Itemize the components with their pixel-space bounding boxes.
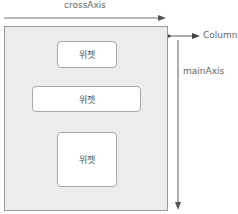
widget-label: 위젯 bbox=[79, 93, 95, 106]
widget-label: 위젯 bbox=[79, 153, 95, 166]
widget-label: 위젯 bbox=[79, 48, 95, 61]
widget-1: 위젯 bbox=[57, 41, 117, 68]
widget-3: 위젯 bbox=[57, 132, 117, 187]
widget-2: 위젯 bbox=[32, 86, 141, 112]
main-axis-label: mainAxis bbox=[183, 66, 224, 76]
column-label: Column bbox=[203, 30, 237, 40]
column-pointer-arrow-icon bbox=[167, 33, 200, 39]
main-axis-arrow-icon bbox=[175, 40, 181, 210]
cross-axis-arrow-icon bbox=[4, 15, 166, 21]
